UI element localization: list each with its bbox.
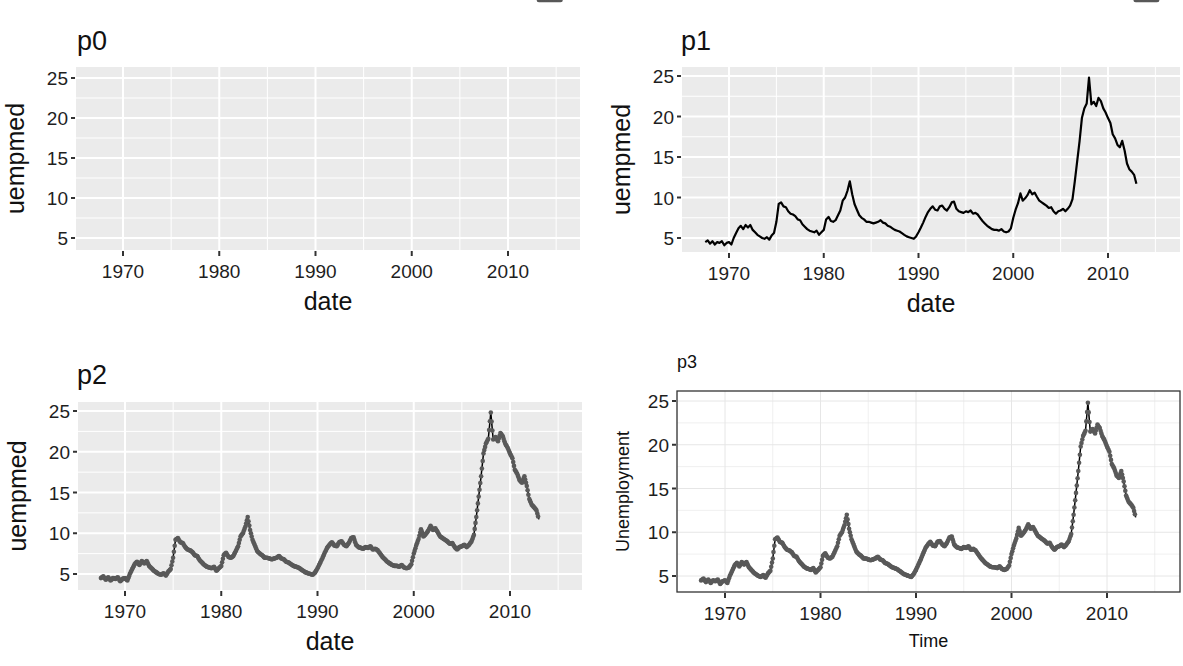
- y-axis: 510152025: [653, 66, 681, 249]
- y-tick-label: 10: [653, 188, 674, 209]
- x-tick-label: 2000: [992, 263, 1034, 284]
- y-tick-label: 20: [653, 107, 674, 128]
- x-tick-label: 2000: [990, 603, 1032, 624]
- y-tick-label: 25: [47, 68, 68, 89]
- x-tick-label: 1970: [102, 261, 144, 282]
- x-tick-label: 2010: [489, 601, 531, 622]
- y-tick-label: 10: [47, 188, 68, 209]
- x-axis: 19701980199020002010: [102, 251, 529, 282]
- y-tick-label: 5: [59, 564, 70, 585]
- y-tick-label: 25: [49, 401, 70, 422]
- x-tick-label: 2010: [487, 261, 529, 282]
- y-axis-title: uempmed: [1, 103, 29, 214]
- y-tick-label: 5: [658, 566, 669, 587]
- x-tick-label: 1980: [200, 601, 242, 622]
- panel-title: p0: [77, 26, 107, 56]
- panel-title: p1: [681, 26, 711, 56]
- y-tick-label: 20: [648, 435, 669, 456]
- panel-title: p2: [77, 360, 107, 390]
- figure: p051015202519701980199020002010dateuempm…: [0, 0, 1183, 666]
- x-tick-label: 1970: [704, 603, 746, 624]
- y-axis: 510152025: [648, 391, 676, 587]
- plot-area: [78, 402, 582, 590]
- x-axis: 19701980199020002010: [708, 253, 1129, 284]
- y-axis: 510152025: [49, 401, 77, 585]
- y-tick-label: 5: [663, 228, 674, 249]
- y-tick-label: 15: [648, 479, 669, 500]
- x-tick-label: 2000: [391, 261, 433, 282]
- x-tick-label: 2000: [393, 601, 435, 622]
- y-tick-label: 20: [49, 442, 70, 463]
- y-axis-title: uempmed: [607, 104, 635, 215]
- x-axis-title: date: [306, 627, 355, 655]
- x-axis: 19701980199020002010: [704, 593, 1128, 624]
- y-tick-label: 20: [47, 108, 68, 129]
- y-tick-label: 10: [648, 522, 669, 543]
- x-tick-label: 1980: [198, 261, 240, 282]
- y-tick-label: 25: [653, 66, 674, 87]
- x-axis-title: Time: [909, 631, 948, 651]
- x-tick-label: 1980: [803, 263, 845, 284]
- x-tick-label: 1990: [897, 263, 939, 284]
- plot-area: [682, 67, 1180, 252]
- y-tick-label: 15: [49, 483, 70, 504]
- panel-p0: p051015202519701980199020002010dateuempm…: [1, 26, 580, 315]
- x-axis-title: date: [304, 287, 353, 315]
- x-tick-label: 1990: [895, 603, 937, 624]
- plot-area: [677, 391, 1180, 592]
- x-tick-label: 1990: [296, 601, 338, 622]
- y-axis-title: uempmed: [3, 440, 31, 551]
- y-tick-label: 15: [653, 147, 674, 168]
- panel-title: p3: [677, 352, 697, 372]
- y-tick-label: 10: [49, 523, 70, 544]
- x-axis: 19701980199020002010: [104, 591, 531, 622]
- y-tick-label: 5: [57, 228, 68, 249]
- y-tick-label: 25: [648, 391, 669, 412]
- x-axis-title: date: [907, 289, 956, 317]
- x-tick-label: 2010: [1086, 603, 1128, 624]
- x-tick-label: 1970: [708, 263, 750, 284]
- y-tick-label: 15: [47, 148, 68, 169]
- x-tick-label: 1970: [104, 601, 146, 622]
- x-tick-label: 2010: [1087, 263, 1129, 284]
- y-axis: 510152025: [47, 68, 75, 249]
- x-tick-label: 1990: [294, 261, 336, 282]
- panel-p1: p151015202519701980199020002010dateuempm…: [607, 26, 1180, 317]
- x-tick-label: 1980: [799, 603, 841, 624]
- y-axis-title: Unemployment: [613, 431, 633, 552]
